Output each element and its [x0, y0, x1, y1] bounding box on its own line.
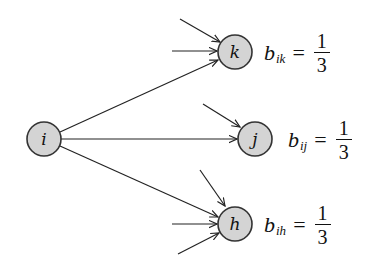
incoming-edges-j [203, 104, 240, 127]
label-b-ij: b ij = 1 3 [288, 118, 352, 162]
label-b-ik-numerator: 1 [315, 31, 329, 52]
edge-i-h [60, 146, 218, 217]
node-i-label: i [41, 129, 46, 149]
node-j: j [238, 122, 272, 156]
label-b-ij-fraction: 1 3 [336, 118, 352, 162]
label-b-ih: b ih = 1 3 [264, 203, 331, 247]
label-b-ik-fraction: 1 3 [314, 31, 330, 75]
label-b-ik-equals: = [292, 40, 304, 66]
label-b-ih-fraction: 1 3 [315, 203, 331, 247]
label-b-ih-denominator: 3 [318, 225, 328, 247]
label-b-ik: b ik = 1 3 [264, 31, 330, 75]
label-b-ih-numerator: 1 [316, 203, 330, 224]
edge-i-k [60, 60, 218, 132]
incoming-edges-k [172, 19, 220, 51]
node-k: k [218, 35, 252, 69]
label-b-ij-sub: ij [300, 138, 307, 154]
node-h: h [218, 207, 252, 241]
label-b-ih-var: b [264, 212, 275, 238]
label-b-ih-sub: ih [276, 223, 286, 239]
label-b-ij-numerator: 1 [337, 118, 351, 139]
node-h-label: h [230, 214, 241, 234]
label-b-ij-equals: = [314, 127, 326, 153]
label-b-ik-denominator: 3 [317, 53, 327, 75]
node-i: i [27, 122, 61, 156]
label-b-ih-equals: = [293, 212, 305, 238]
incoming-edges-h [172, 170, 225, 254]
label-b-ik-var: b [264, 40, 275, 66]
label-b-ik-sub: ik [276, 51, 285, 67]
label-b-ij-var: b [288, 127, 299, 153]
node-k-label: k [230, 42, 240, 62]
label-b-ij-denominator: 3 [339, 140, 349, 162]
